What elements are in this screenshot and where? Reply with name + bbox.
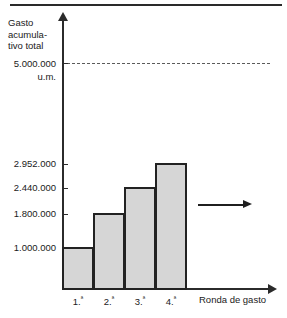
bar-round-1: [62, 247, 94, 290]
x-tick-ord-1: ª: [81, 295, 83, 302]
x-axis-title: Ronda de gasto: [199, 294, 266, 305]
bar-round-3: [124, 187, 156, 290]
x-tick-num-2: 2.: [104, 296, 112, 307]
bar-round-4: [155, 163, 187, 290]
y-tick-mark-1800000: [62, 214, 68, 215]
x-tick-num-4: 4.: [166, 296, 174, 307]
bar-round-2: [93, 213, 125, 290]
x-tick-label-round-1: 1.ª: [61, 293, 95, 307]
x-tick-label-round-2: 2.ª: [92, 293, 126, 307]
x-axis-arrowhead-icon: [268, 284, 277, 294]
y-axis-title: Gasto acumula- tivo total: [8, 17, 60, 52]
top-divider-rule: [10, 4, 282, 6]
x-tick-ord-4: ª: [174, 295, 176, 302]
x-tick-label-round-4: 4.ª: [154, 293, 188, 307]
y-tick-mark-2952000: [62, 164, 68, 165]
y-tick-label-2440000: 2.440.000: [4, 183, 56, 193]
y-axis-title-line-3: tivo total: [8, 40, 60, 52]
y-tick-mark-2440000: [62, 188, 68, 189]
x-tick-label-round-3: 3.ª: [123, 293, 157, 307]
y-tick-label-1000000: 1.000.000: [4, 243, 56, 253]
continuation-arrow-shaft-icon: [198, 204, 244, 206]
y-tick-label-2952000: 2.952.000: [4, 159, 56, 169]
y-tick-mark-5000000: [62, 63, 68, 64]
y-axis-arrowhead-icon: [58, 12, 68, 21]
x-tick-ord-3: ª: [143, 295, 145, 302]
y-axis-title-line-2: acumula-: [8, 29, 60, 41]
x-tick-ord-2: ª: [112, 295, 114, 302]
x-tick-num-1: 1.: [73, 296, 81, 307]
continuation-arrow-head-icon: [243, 200, 252, 208]
chart-figure: Gasto acumula- tivo total 5.000.000 u.m.…: [0, 0, 287, 318]
y-axis-title-line-1: Gasto: [8, 17, 60, 29]
y-tick-label-1800000: 1.800.000: [4, 209, 56, 219]
x-tick-num-3: 3.: [135, 296, 143, 307]
reference-line-5000000: [62, 63, 270, 64]
y-tick-label-5000000: 5.000.000: [4, 59, 56, 69]
y-axis-unit-label: u.m.: [4, 72, 56, 82]
